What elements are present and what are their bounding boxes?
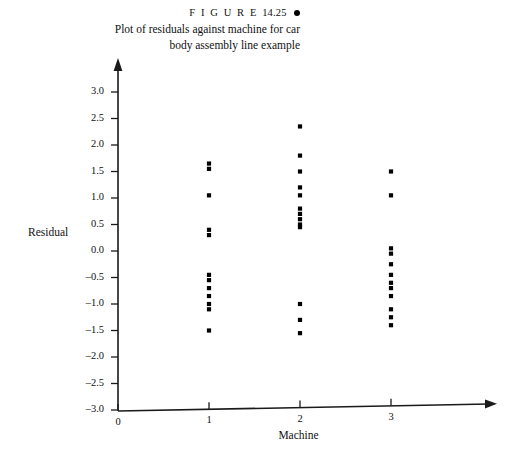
data-point-marker bbox=[298, 225, 302, 229]
data-point-marker bbox=[298, 217, 302, 221]
data-point-marker bbox=[207, 233, 211, 237]
data-point-marker bbox=[207, 228, 211, 232]
data-point-marker bbox=[207, 193, 211, 197]
data-point-marker bbox=[207, 286, 211, 290]
data-point-marker bbox=[389, 193, 393, 197]
y-tick-label: –2.0 bbox=[70, 350, 104, 361]
data-point-marker bbox=[389, 315, 393, 319]
data-point-marker bbox=[207, 161, 211, 165]
data-point-marker bbox=[389, 252, 393, 256]
y-tick-label: 2.0 bbox=[70, 138, 104, 149]
y-tick-label: 2.5 bbox=[70, 112, 104, 123]
data-point-marker bbox=[298, 169, 302, 173]
data-points-group bbox=[207, 124, 393, 335]
data-point-marker bbox=[298, 154, 302, 158]
y-tick-label: –3.0 bbox=[70, 403, 104, 414]
x-axis-title: Machine bbox=[0, 429, 521, 441]
data-point-marker bbox=[389, 286, 393, 290]
y-tick-label: –0.5 bbox=[70, 271, 104, 282]
y-tick-label: 0.5 bbox=[70, 218, 104, 229]
x-axis-arrow-icon bbox=[485, 400, 497, 409]
data-point-marker bbox=[207, 328, 211, 332]
data-point-marker bbox=[207, 278, 211, 282]
y-tick-label: –1.5 bbox=[70, 324, 104, 335]
data-point-marker bbox=[298, 207, 302, 211]
scatter-plot-canvas bbox=[0, 0, 521, 459]
data-point-marker bbox=[389, 246, 393, 250]
y-axis-arrow-icon bbox=[114, 58, 123, 71]
data-point-marker bbox=[389, 281, 393, 285]
x-tick-label: 0 bbox=[106, 416, 130, 427]
data-point-marker bbox=[298, 212, 302, 216]
x-tick-label: 3 bbox=[379, 411, 403, 422]
x-axis-line bbox=[118, 404, 489, 411]
data-point-marker bbox=[298, 331, 302, 335]
data-point-marker bbox=[298, 185, 302, 189]
y-tick-label: 1.0 bbox=[70, 191, 104, 202]
data-point-marker bbox=[298, 302, 302, 306]
y-tick-marks bbox=[111, 92, 118, 410]
x-tick-label: 2 bbox=[288, 413, 312, 424]
data-point-marker bbox=[207, 167, 211, 171]
data-point-marker bbox=[389, 307, 393, 311]
data-point-marker bbox=[389, 323, 393, 327]
figure-root: F I G U R E 14.25 Plot of residuals agai… bbox=[0, 0, 521, 459]
data-point-marker bbox=[207, 294, 211, 298]
y-tick-label: –2.5 bbox=[70, 377, 104, 388]
data-point-marker bbox=[298, 318, 302, 322]
x-tick-label: 1 bbox=[197, 414, 221, 425]
y-tick-label: –1.0 bbox=[70, 297, 104, 308]
data-point-marker bbox=[389, 262, 393, 266]
axes-group bbox=[114, 58, 497, 411]
data-point-marker bbox=[207, 302, 211, 306]
data-point-marker bbox=[207, 273, 211, 277]
data-point-marker bbox=[207, 307, 211, 311]
data-point-marker bbox=[298, 124, 302, 128]
y-axis-title: Residual bbox=[28, 226, 68, 238]
data-point-marker bbox=[389, 273, 393, 277]
y-tick-label: 3.0 bbox=[70, 85, 104, 96]
y-tick-label: 1.5 bbox=[70, 165, 104, 176]
y-tick-label: 0.0 bbox=[70, 244, 104, 255]
x-axis-title-text: Machine bbox=[278, 429, 318, 441]
data-point-marker bbox=[389, 294, 393, 298]
data-point-marker bbox=[389, 169, 393, 173]
data-point-marker bbox=[298, 193, 302, 197]
